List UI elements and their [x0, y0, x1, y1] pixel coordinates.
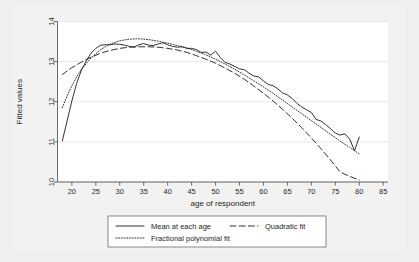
x-tick-label: 75	[331, 187, 339, 196]
x-tick-label: 50	[211, 187, 219, 196]
y-tick-label: 14	[47, 17, 56, 25]
y-tick-label: 13	[47, 57, 56, 65]
legend-label-1: Quadratic fit	[265, 222, 306, 231]
y-tick-label: 10	[47, 178, 56, 186]
x-tick-label: 45	[187, 187, 195, 196]
x-tick-label: 30	[116, 187, 124, 196]
legend-label-2: Fractional polynomial fit	[151, 234, 231, 243]
x-tick-label: 25	[92, 187, 100, 196]
y-tick-label: 12	[47, 98, 56, 106]
y-axis-title: Fitted values	[15, 79, 24, 124]
x-axis-title: age of respondent	[191, 199, 256, 208]
chart-plot: 1011121314 2025303540455055606570758085 …	[0, 0, 419, 262]
chart-figure: 1011121314 2025303540455055606570758085 …	[0, 0, 419, 262]
x-tick-label: 55	[235, 187, 243, 196]
x-tick-label: 65	[283, 187, 291, 196]
x-tick-label: 20	[68, 187, 76, 196]
y-tick-label: 11	[47, 138, 56, 146]
x-axis-ticks: 2025303540455055606570758085	[68, 182, 388, 196]
x-tick-label: 85	[379, 187, 387, 196]
chart-legend: Mean at each ageQuadratic fitFractional …	[108, 216, 326, 247]
y-axis-ticks: 1011121314	[47, 17, 58, 186]
x-tick-label: 35	[140, 187, 148, 196]
x-tick-label: 70	[307, 187, 315, 196]
x-tick-label: 40	[163, 187, 171, 196]
x-tick-label: 60	[259, 187, 267, 196]
legend-label-0: Mean at each age	[151, 222, 211, 231]
x-tick-label: 80	[355, 187, 363, 196]
